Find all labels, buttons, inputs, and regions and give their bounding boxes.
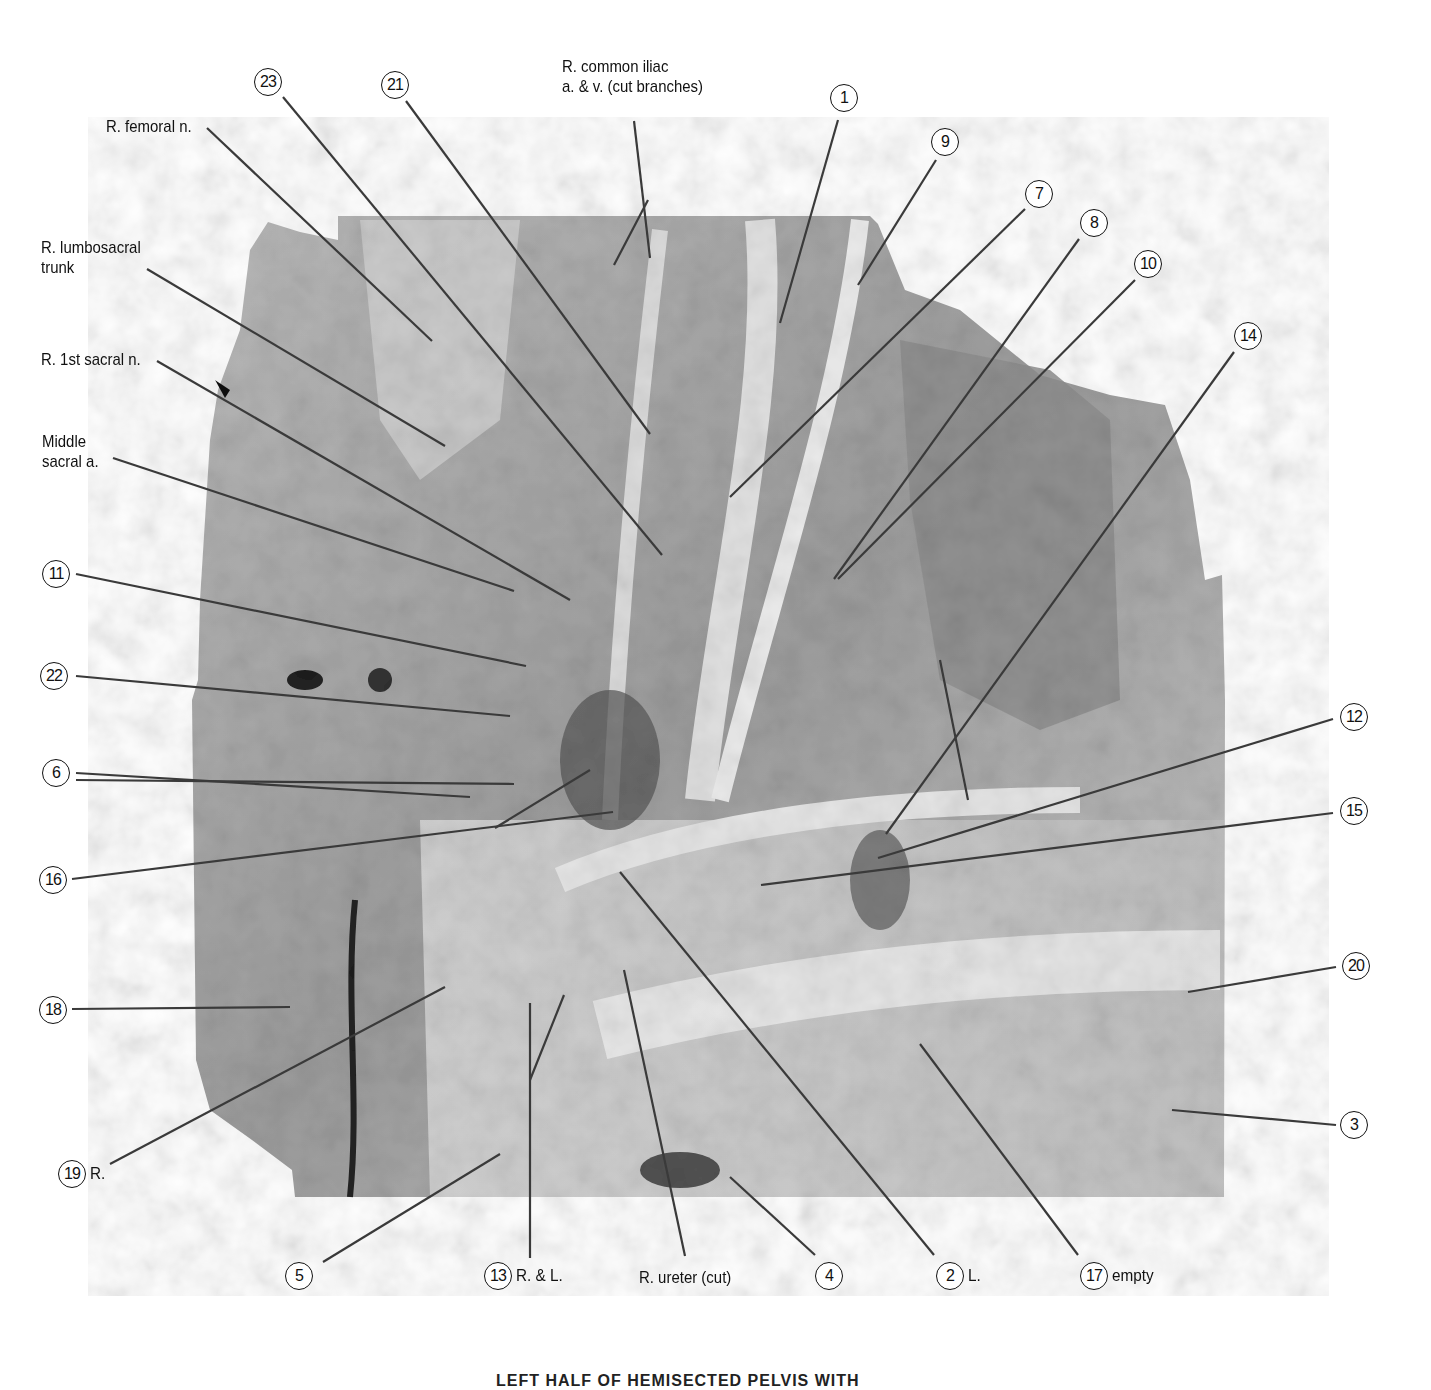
callout-number: 3 <box>1340 1111 1368 1139</box>
label-text: R. 1st sacral n. <box>41 350 141 369</box>
label-text-line-2: sacral a. <box>42 452 99 472</box>
callout-22: 22 <box>40 662 68 690</box>
label-r-lumbosacral-trunk: R. lumbosacral trunk <box>41 238 141 278</box>
callout-suffix: R. <box>90 1164 105 1184</box>
callout-7: 7 <box>1025 180 1053 208</box>
callout-suffix: R. & L. <box>516 1266 563 1286</box>
callout-1: 1 <box>830 84 858 112</box>
callout-8: 8 <box>1080 209 1108 237</box>
callout-number: 11 <box>42 560 70 588</box>
callout-number: 20 <box>1342 952 1370 980</box>
callout-number: 17 <box>1080 1262 1108 1290</box>
callout-number: 16 <box>39 866 67 894</box>
label-r-1st-sacral-n: R. 1st sacral n. <box>41 350 141 370</box>
label-text-line-1: R. common iliac <box>562 57 703 77</box>
callout-12: 12 <box>1340 703 1368 731</box>
label-text-line-2: a. & v. (cut branches) <box>562 77 703 97</box>
label-text: R. femoral n. <box>106 117 192 136</box>
callout-number: 21 <box>381 71 409 99</box>
label-text: R. ureter (cut) <box>639 1268 731 1287</box>
callout-number: 19 <box>58 1160 86 1188</box>
callout-21: 21 <box>381 71 409 99</box>
callout-suffix: empty <box>1112 1266 1154 1286</box>
callout-3: 3 <box>1340 1111 1368 1139</box>
callout-number: 14 <box>1234 322 1262 350</box>
callout-number: 1 <box>830 84 858 112</box>
callout-number: 6 <box>42 759 70 787</box>
label-r-common-iliac: R. common iliac a. & v. (cut branches) <box>562 57 703 97</box>
callout-13: 13R. & L. <box>484 1262 568 1290</box>
callout-16: 16 <box>39 866 67 894</box>
callout-number: 18 <box>39 996 67 1024</box>
callout-11: 11 <box>42 560 70 588</box>
callout-number: 10 <box>1134 250 1162 278</box>
callout-23: 23 <box>254 68 282 96</box>
callout-number: 13 <box>484 1262 512 1290</box>
callout-number: 12 <box>1340 703 1368 731</box>
label-text-line-1: Middle <box>42 432 99 452</box>
callout-17: 17empty <box>1080 1262 1158 1290</box>
callout-18: 18 <box>39 996 67 1024</box>
callout-20: 20 <box>1342 952 1370 980</box>
callout-10: 10 <box>1134 250 1162 278</box>
callout-number: 8 <box>1080 209 1108 237</box>
callout-number: 5 <box>285 1262 313 1290</box>
callout-number: 15 <box>1340 797 1368 825</box>
callout-number: 4 <box>815 1262 843 1290</box>
callout-number: 7 <box>1025 180 1053 208</box>
callout-2: 2L. <box>936 1262 982 1290</box>
callout-number: 2 <box>936 1262 964 1290</box>
callout-15: 15 <box>1340 797 1368 825</box>
callout-19: 19R. <box>58 1160 107 1188</box>
label-r-ureter-cut: R. ureter (cut) <box>639 1268 731 1288</box>
callout-6: 6 <box>42 759 70 787</box>
callout-14: 14 <box>1234 322 1262 350</box>
callout-9: 9 <box>931 128 959 156</box>
callout-suffix: L. <box>968 1266 981 1286</box>
callout-5: 5 <box>285 1262 313 1290</box>
label-middle-sacral-a: Middle sacral a. <box>42 432 99 472</box>
callout-4: 4 <box>815 1262 843 1290</box>
callout-number: 22 <box>40 662 68 690</box>
callout-number: 9 <box>931 128 959 156</box>
callout-number: 23 <box>254 68 282 96</box>
label-r-femoral-n: R. femoral n. <box>106 117 192 137</box>
label-text-line-1: R. lumbosacral <box>41 238 141 258</box>
figure-caption: LEFT HALF OF HEMISECTED PELVIS WITH <box>496 1372 860 1390</box>
label-text-line-2: trunk <box>41 258 141 278</box>
